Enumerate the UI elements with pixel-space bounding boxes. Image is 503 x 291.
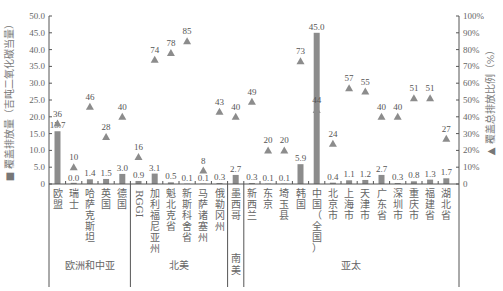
right-tick-label: 0 [463, 179, 468, 189]
right-tick-label: 10% [463, 162, 480, 172]
region-label: 欧洲和中亚 [65, 259, 115, 271]
bar-value-label: 0.3 [246, 172, 258, 182]
bar-value-label: 1.3 [424, 169, 436, 179]
triangle-marker [394, 113, 402, 120]
right-tick-label: 80% [463, 45, 480, 55]
bar-value-label: 3.0 [117, 163, 129, 173]
bar-value-label: 5.9 [295, 153, 307, 163]
right-tick-label: 100% [463, 11, 485, 21]
category-label: 韩国 [296, 187, 306, 210]
category-label: 重庆市 [409, 187, 419, 221]
bar [55, 131, 61, 184]
category-label: 上海市 [344, 188, 354, 221]
left-tick-label: 0 [41, 179, 46, 189]
category-label: 哈萨克斯坦 [85, 187, 95, 243]
bar-value-label: 1.2 [360, 169, 371, 179]
bar [103, 179, 109, 184]
category-label: 中国（全国） [312, 187, 322, 254]
triangle-marker [118, 113, 126, 120]
triangle-marker [232, 113, 240, 120]
right-tick-label: 60% [463, 78, 480, 88]
marker-value-label: 40 [377, 102, 387, 112]
triangle-marker [426, 94, 434, 101]
bar [87, 179, 93, 184]
marker-value-label: 49 [247, 87, 257, 97]
bar-value-label: 0.5 [165, 171, 177, 181]
triangle-marker [216, 108, 224, 115]
bar [119, 174, 125, 184]
region-label: 南美 [231, 252, 241, 276]
marker-value-label: 78 [166, 38, 176, 48]
category-label: 新西兰 [247, 187, 257, 221]
bar-value-label: 0.1 [181, 173, 192, 183]
marker-value-label: 24 [328, 129, 338, 139]
category-label: 埼玉县 [279, 187, 289, 221]
marker-value-label: 46 [85, 92, 95, 102]
bar-value-label: 0.1 [262, 173, 273, 183]
category-label: 天津市 [360, 188, 370, 221]
marker-value-label: 55 [361, 77, 371, 87]
marker-value-label: 20 [280, 135, 290, 145]
category-label: 加利福尼亚州 [150, 188, 160, 254]
bar [298, 164, 304, 184]
marker-value-label: 43 [215, 97, 225, 107]
category-label: 德国 [117, 187, 127, 210]
marker-value-label: 40 [231, 102, 241, 112]
triangle-marker [151, 56, 159, 63]
marker-value-label: 8 [201, 156, 206, 166]
bar [443, 178, 449, 184]
marker-value-label: 40 [393, 102, 403, 112]
category-label: 魁北克省 [166, 187, 176, 232]
category-label: 新斯科舍省 [182, 187, 192, 243]
marker-value-label: 73 [296, 46, 306, 56]
right-tick-label: 30% [463, 129, 480, 139]
triangle-marker [378, 113, 386, 120]
marker-value-label: 85 [183, 26, 193, 36]
left-tick-label: 10.0 [29, 145, 45, 155]
category-label: 福建省 [425, 187, 435, 221]
right-tick-label: 70% [463, 61, 480, 71]
chart: 05.010.015.020.025.030.035.040.045.050.0… [0, 0, 503, 291]
left-tick-label: 20.0 [29, 112, 45, 122]
left-tick-label: 15.0 [29, 129, 45, 139]
marker-value-label: 51 [409, 83, 418, 93]
region-label: 亚太 [341, 259, 361, 271]
bar-value-label: 0.1 [198, 173, 209, 183]
bar-value-label: 0.4 [327, 172, 339, 182]
scatter-series-share: 3610462840167478858434049202073442457554… [53, 26, 451, 173]
marker-value-label: 44 [312, 95, 322, 105]
bar-value-label: 0.8 [408, 170, 420, 180]
triangle-marker [361, 88, 369, 95]
marker-value-label: 27 [442, 124, 452, 134]
right-tick-label: 40% [463, 112, 480, 122]
right-tick-label: 90% [463, 28, 480, 38]
category-label: 马萨诸塞州 [198, 188, 208, 243]
category-label: 欧盟 [53, 188, 63, 210]
triangle-marker [248, 98, 256, 105]
category-label: 瑞士 [69, 188, 79, 210]
right-tick-label: 50% [463, 95, 480, 105]
left-tick-label: 25.0 [29, 95, 45, 105]
marker-value-label: 10 [69, 152, 79, 162]
left-tick-label: 50.0 [29, 11, 45, 21]
right-y-axis: 010%20%30%40%50%60%70%80%90%100% [456, 11, 485, 189]
category-label: 广东省 [377, 188, 387, 221]
marker-value-label: 20 [264, 135, 274, 145]
category-label: 湖北省 [441, 188, 451, 221]
triangle-marker [183, 37, 191, 44]
triangle-marker [442, 135, 450, 142]
bar-value-label: 0.3 [392, 172, 404, 182]
marker-value-label: 16 [134, 142, 144, 152]
marker-value-label: 74 [150, 45, 160, 55]
left-tick-label: 45.0 [29, 28, 45, 38]
bar [152, 174, 158, 184]
left-y-axis: 05.010.015.020.025.030.035.040.045.050.0 [29, 11, 52, 189]
bar [346, 180, 352, 184]
triangle-marker [410, 94, 418, 101]
triangle-marker [264, 146, 272, 153]
bar-value-label: 2.7 [230, 164, 242, 174]
marker-value-label: 57 [345, 73, 355, 83]
left-tick-label: 35.0 [29, 61, 45, 71]
x-axis: 欧盟瑞士哈萨克斯坦英国德国RGGI加利福尼亚州魁北克省新斯科舍省马萨诸塞州俄勒冈… [49, 181, 459, 254]
category-label: 北京市 [328, 188, 338, 221]
